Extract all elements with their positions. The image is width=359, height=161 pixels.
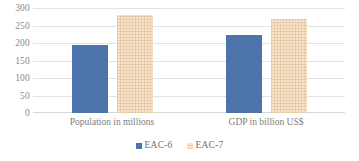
- gridline: [33, 8, 345, 9]
- y-tick-label: 150: [2, 57, 30, 67]
- legend-swatch-icon: [136, 143, 142, 149]
- bar-chart: 300 250 200 150 100 50 0 Population in m…: [0, 0, 359, 161]
- legend-label: EAC-7: [196, 141, 224, 151]
- legend: EAC-6 EAC-7: [0, 141, 359, 151]
- y-tick-label: 100: [2, 74, 30, 84]
- y-tick-label: 50: [2, 92, 30, 102]
- y-tick-label: 300: [2, 4, 30, 14]
- y-tick-label: 200: [2, 39, 30, 49]
- legend-swatch-icon: [187, 143, 193, 149]
- legend-item-eac7[interactable]: EAC-7: [187, 141, 224, 151]
- bar-gdp-eac7[interactable]: [271, 19, 307, 113]
- legend-label: EAC-6: [145, 141, 173, 151]
- x-category-label-gdp: GDP in billion US$: [196, 118, 336, 128]
- bar-population-eac6[interactable]: [72, 45, 108, 113]
- bar-gdp-eac6[interactable]: [226, 35, 262, 113]
- y-axis: 300 250 200 150 100 50 0: [0, 8, 30, 113]
- legend-item-eac6[interactable]: EAC-6: [136, 141, 173, 151]
- y-tick-label: 0: [2, 109, 30, 119]
- y-tick-label: 250: [2, 22, 30, 32]
- bar-population-eac7[interactable]: [117, 15, 153, 113]
- x-category-label-population: Population in millions: [42, 118, 182, 128]
- plot-area: [33, 8, 345, 113]
